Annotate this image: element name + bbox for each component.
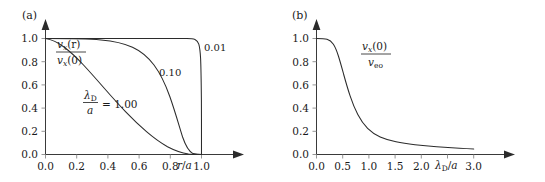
x-axis-title-b-den: a [451, 159, 457, 171]
svg-text:vx(0): vx(0) [362, 40, 387, 54]
x-tick-label-b-0: 0.0 [308, 160, 325, 172]
y-axis-arrowhead-b [313, 19, 321, 30]
panel-b: (b) 1.0 0.8 0.6 0.4 0.2 0.0 [272, 0, 545, 182]
curve-vx0-over-veo [317, 39, 474, 149]
y-tick-label-b-1: 0.2 [292, 125, 309, 137]
x-tick-label-a-5: 1.0 [193, 160, 210, 172]
x-axis-arrowhead-a [233, 151, 244, 159]
y-axis-arrowhead-a [42, 19, 50, 30]
panel-a-label: (a) [22, 9, 37, 22]
y-axis-title-b-den-sub: eo [374, 61, 383, 70]
panel-b-label: (b) [292, 9, 308, 22]
curve-label-1-00-num-sub: D [91, 94, 97, 103]
curve-label-1-00-rhs: = 1.00 [102, 98, 138, 110]
y-tick-label-a-3: 0.6 [21, 79, 38, 91]
y-axis-title-b-num-arg: (0) [372, 40, 387, 52]
svg-text:λD/a: λD/a [434, 159, 457, 173]
curve-label-1-00: λD a = 1.00 [83, 89, 138, 116]
curve-label-1-00-num: λ [83, 89, 91, 101]
curve-label-0-10: 0.10 [159, 67, 181, 78]
x-tick-label-a-3: 0.6 [131, 160, 148, 172]
x-axis-title-b: λD/a [434, 159, 457, 173]
y-tick-marks-b [313, 39, 317, 155]
y-axis-title-a-num-arg: (r) [67, 38, 80, 50]
x-tick-label-a-0: 0.0 [37, 160, 54, 172]
curve-label-0-01: 0.01 [204, 42, 226, 53]
y-axis-title-b: vx(0) veo [361, 40, 391, 70]
svg-text:λD: λD [83, 89, 97, 103]
y-tick-label-a-0: 0.0 [21, 148, 38, 160]
figure-container: (a) 1.0 0.8 0.6 0.4 0.2 0.0 [0, 0, 545, 182]
svg-text:vx(0): vx(0) [57, 54, 82, 68]
x-tick-label-b-4: 2.0 [413, 160, 430, 172]
svg-text:veo: veo [368, 56, 383, 70]
curve-label-1-00-den: a [87, 104, 93, 116]
y-tick-label-a-5: 1.0 [21, 32, 38, 44]
x-tick-label-b-1: 0.5 [334, 160, 351, 172]
y-tick-label-a-1: 0.2 [21, 125, 38, 137]
x-axis-arrowhead-b [504, 151, 515, 159]
x-tick-marks-b [317, 155, 474, 159]
y-tick-marks-a [42, 39, 46, 155]
x-tick-label-b-6: 3.0 [465, 160, 482, 172]
x-axis-title-a-den: a [186, 159, 192, 171]
x-tick-label-a-2: 0.4 [100, 160, 117, 172]
panel-b-plot: (b) 1.0 0.8 0.6 0.4 0.2 0.0 [272, 0, 545, 182]
y-tick-label-a-4: 0.8 [21, 56, 38, 68]
x-tick-label-b-2: 1.0 [361, 160, 378, 172]
y-tick-label-b-0: 0.0 [292, 148, 309, 160]
panel-a-plot: (a) 1.0 0.8 0.6 0.4 0.2 0.0 [0, 0, 272, 182]
x-tick-label-b-3: 1.5 [387, 160, 404, 172]
y-tick-label-b-2: 0.4 [292, 102, 309, 114]
x-tick-label-a-1: 0.2 [68, 160, 85, 172]
x-axis-title-a: r/a [177, 159, 192, 171]
svg-text:a: a [87, 104, 93, 116]
y-tick-label-b-4: 0.8 [292, 56, 309, 68]
y-tick-label-b-5: 1.0 [292, 32, 309, 44]
y-tick-label-b-3: 0.6 [292, 79, 309, 91]
x-axis-title-b-var: λ [434, 159, 442, 171]
panel-a: (a) 1.0 0.8 0.6 0.4 0.2 0.0 [0, 0, 272, 182]
y-tick-label-a-2: 0.4 [21, 102, 38, 114]
svg-text:r/a: r/a [177, 159, 192, 171]
